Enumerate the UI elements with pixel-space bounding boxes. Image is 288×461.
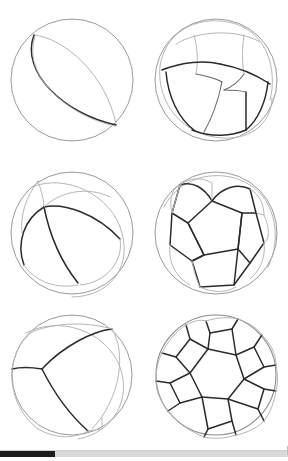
great-circle-back-edge (34, 35, 116, 124)
outer-seam-lower-left (168, 403, 180, 411)
face-bottom-boundary (38, 429, 88, 437)
equator-front-left (162, 62, 220, 70)
figure-dihedron-svg (2, 2, 142, 154)
seam-center-front (204, 82, 222, 132)
equator-inner-left (196, 74, 222, 82)
scrollbar-track[interactable] (0, 450, 288, 457)
figure-hexahedron-svg (146, 2, 286, 154)
figure-truncated-icosahedron-svg (146, 311, 286, 445)
pole-upper-rib (38, 181, 44, 207)
outer-seam-lower-right (258, 409, 264, 421)
equator-front-right (220, 64, 270, 84)
upper-right-hexagon (236, 347, 264, 379)
equator-inner-right (224, 74, 244, 90)
outer-edge-bottom-right (236, 421, 264, 435)
outer-seam-upper-right (254, 335, 262, 347)
outer-edge-bottom (204, 435, 236, 438)
lower-hexagon (202, 397, 232, 429)
upper-left-pentagon (172, 183, 212, 222)
sphere-outline (156, 315, 276, 435)
outer-edge-top (206, 318, 238, 321)
figure-grid (0, 0, 288, 446)
lune-seam-lower-back (24, 265, 78, 286)
figure-hosohedron (0, 155, 144, 310)
left-pentagon (170, 213, 204, 261)
edge-to-left (12, 368, 42, 370)
horizontal-scrollbar[interactable] (0, 446, 288, 461)
top-face-left-rib (194, 35, 197, 74)
outer-seam-left (156, 381, 170, 383)
figure-dodecahedron-svg (146, 157, 286, 309)
central-hexagon (190, 349, 244, 399)
outer-edge-lower-right (264, 391, 276, 421)
right-pentagon (238, 213, 264, 263)
face-left-boundary (12, 369, 38, 429)
figure-hosohedron-svg (2, 157, 142, 309)
far-rib-lower-left (170, 245, 190, 285)
outer-seam-bottom (204, 429, 208, 437)
figure-tetrahedron-svg (2, 311, 142, 445)
figure-dihedron (0, 0, 144, 155)
bottom-face-front-edge (192, 130, 246, 135)
outer-seam-right-upper (264, 365, 276, 367)
far-rib-right (264, 215, 269, 243)
scrollbar-endcap (287, 446, 288, 455)
top-face-right-rib (243, 35, 245, 74)
central-pentagon (188, 201, 242, 255)
great-circle-seam (33, 37, 115, 126)
outer-seam-upper-left (162, 353, 176, 357)
great-circle-front-edge (31, 35, 116, 125)
upper-left-pentagon-back (180, 178, 212, 200)
outer-seam-top-left (186, 325, 190, 339)
seam-right-front (246, 82, 268, 130)
lune-seam-upper-right (44, 206, 120, 239)
bottom-face-top-edge (224, 90, 246, 92)
figure-tetrahedron (0, 310, 144, 446)
outer-edge-left (156, 381, 168, 411)
far-rib-bottom (200, 287, 236, 292)
top-face-back-edge (176, 32, 260, 43)
edge-to-top-right (42, 329, 112, 369)
figure-dodecahedron (144, 155, 288, 310)
lune-seam-down (44, 207, 78, 283)
edge-to-bottom (42, 369, 88, 431)
figure-truncated-icosahedron (144, 310, 288, 446)
seam-left-front (166, 72, 194, 130)
sphere-outline (11, 19, 133, 141)
face-upper-left-boundary (12, 331, 34, 369)
scrollbar-thumb[interactable] (0, 451, 55, 457)
bottom-pentagon (192, 249, 238, 287)
outer-edge-lower-left (168, 411, 204, 437)
right-hexagon (228, 379, 264, 409)
lune-seam-left (21, 207, 44, 265)
figure-hexahedron (144, 0, 288, 155)
upper-pentagon (208, 329, 236, 355)
